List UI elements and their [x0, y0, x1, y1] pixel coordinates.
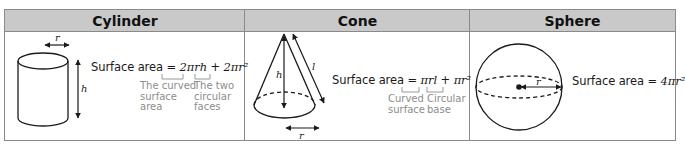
formula-prefix: Surface area =	[91, 60, 180, 74]
formula-term-base: πr²	[454, 73, 471, 87]
formula-term-curved: πrl	[421, 73, 437, 87]
formula-plus: +	[437, 73, 454, 87]
cylinder-r-label: r	[55, 32, 61, 43]
cone-slant-arrow	[293, 34, 324, 103]
formula-prefix: Surface area =	[332, 73, 421, 87]
formula-prefix: Surface area =	[572, 74, 661, 88]
formula-term-faces: 2πr²	[224, 60, 249, 74]
cylinder-shape	[18, 53, 68, 126]
sphere-r-label: r	[536, 76, 542, 87]
cylinder-h-label: h	[81, 83, 87, 94]
formula-term-curved: 2πrh	[180, 60, 207, 74]
sphere-center-dot	[516, 84, 522, 90]
sphere-formula: Surface area = 4πr²	[572, 74, 685, 88]
cylinder-formula: Surface area = 2πrh + 2πr²	[91, 60, 248, 74]
formula-plus: +	[207, 60, 224, 74]
cylinder-note-faces: The two circular faces	[194, 81, 234, 113]
cone-formula: Surface area = πrl + πr²	[332, 73, 471, 87]
cone-r-label: r	[299, 130, 305, 141]
cone-h-label: h	[276, 69, 282, 80]
formula-term: 4πr²	[661, 74, 685, 88]
cone-note-curved: Curved surface	[388, 94, 425, 115]
cylinder-brackets	[162, 74, 210, 79]
cylinder-note-curved: The curved surface area	[140, 81, 196, 113]
cone-brackets	[402, 87, 443, 92]
cone-l-label: l	[312, 61, 315, 72]
cone-note-base: Circular base	[427, 94, 466, 115]
